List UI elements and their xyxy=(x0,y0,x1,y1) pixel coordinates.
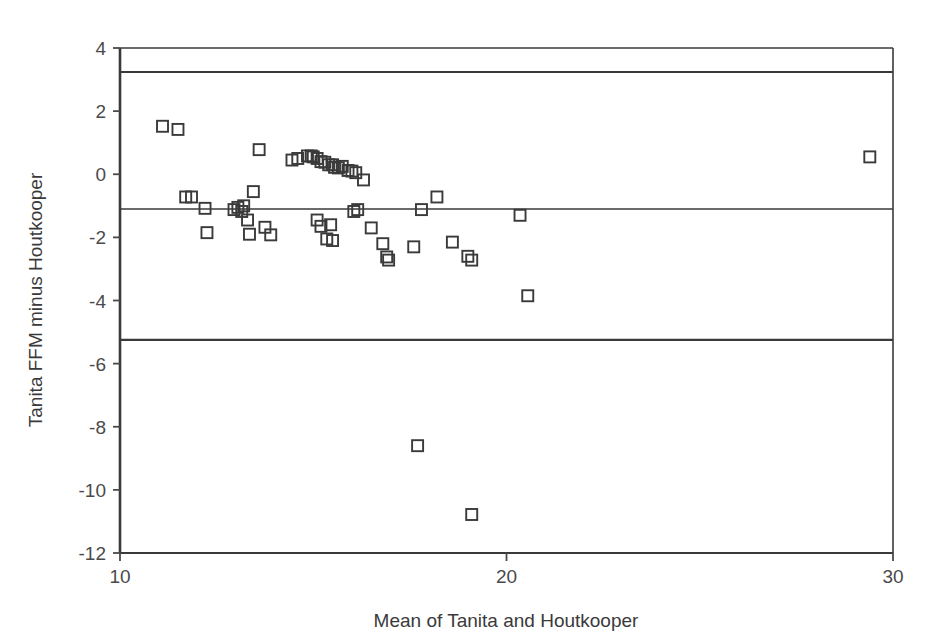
data-point xyxy=(201,227,212,238)
data-point xyxy=(358,174,369,185)
x-axis-title: Mean of Tanita and Houtkooper xyxy=(374,610,639,631)
y-tick-label-1: 2 xyxy=(95,101,106,122)
data-point xyxy=(248,186,259,197)
y-axis-title: Tanita FFM minus Houtkooper xyxy=(25,172,46,427)
data-point xyxy=(377,238,388,249)
data-point xyxy=(172,124,183,135)
y-tick-label-4: -4 xyxy=(89,291,106,312)
y-tick-label-0: 4 xyxy=(95,38,106,59)
x-tick-label-1: 20 xyxy=(496,566,517,587)
data-point xyxy=(466,255,477,266)
y-tick-label-2: 0 xyxy=(95,164,106,185)
data-point xyxy=(431,191,442,202)
data-point xyxy=(412,440,423,451)
bland-altman-chart: 420-2-4-6-8-10-12102030Mean of Tanita an… xyxy=(0,0,935,640)
data-point xyxy=(408,241,419,252)
data-point xyxy=(515,210,526,221)
data-point xyxy=(864,151,875,162)
x-tick-label-2: 30 xyxy=(882,566,903,587)
x-tick-label-0: 10 xyxy=(109,566,130,587)
data-point xyxy=(366,222,377,233)
y-tick-label-7: -10 xyxy=(79,480,106,501)
data-point xyxy=(462,251,473,262)
data-point xyxy=(466,509,477,520)
data-point xyxy=(522,290,533,301)
data-point xyxy=(254,144,265,155)
chart-svg: 420-2-4-6-8-10-12102030Mean of Tanita an… xyxy=(0,0,935,640)
y-tick-label-5: -6 xyxy=(89,354,106,375)
data-point xyxy=(447,237,458,248)
data-point xyxy=(244,229,255,240)
y-tick-label-8: -12 xyxy=(79,543,106,564)
data-point xyxy=(157,121,168,132)
y-tick-label-3: -2 xyxy=(89,227,106,248)
y-tick-label-6: -8 xyxy=(89,417,106,438)
